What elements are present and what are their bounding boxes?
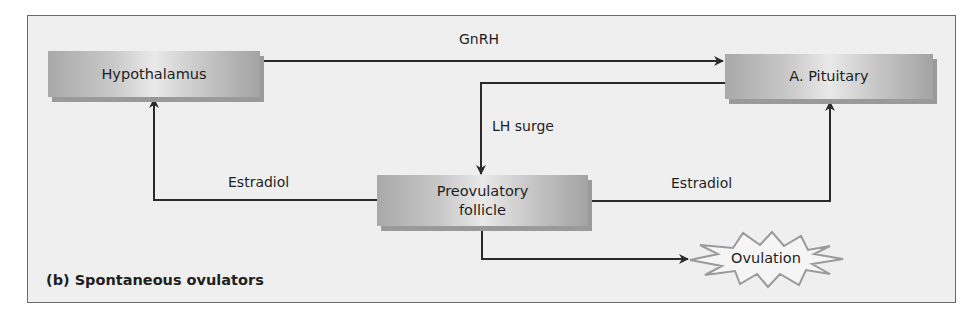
pituitary-label: A. Pituitary	[789, 67, 868, 86]
lh-surge-label: LH surge	[492, 118, 554, 134]
ovulation-label: Ovulation	[731, 250, 801, 266]
follicle-label-line1: Preovulatory	[437, 182, 529, 201]
hypothalamus-node: Hypothalamus	[48, 51, 260, 97]
ovulation-arrow	[482, 228, 688, 259]
estradiol-right-label: Estradiol	[671, 175, 732, 191]
pituitary-node: A. Pituitary	[725, 54, 933, 99]
follicle-node: Preovulatory follicle	[377, 175, 588, 226]
figure-caption: (b) Spontaneous ovulators	[46, 272, 264, 288]
follicle-label-line2: follicle	[459, 201, 506, 220]
hypothalamus-label: Hypothalamus	[101, 65, 206, 84]
gnrh-label: GnRH	[459, 31, 499, 47]
estradiol-left-label: Estradiol	[228, 174, 289, 190]
